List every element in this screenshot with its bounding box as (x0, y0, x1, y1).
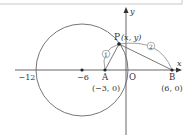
point-b-coords: (6, 0) (161, 84, 183, 93)
ratio-2-label: 2 (149, 43, 153, 50)
x-axis-arrow-icon (176, 68, 182, 73)
tick-label-neg12: −12 (19, 73, 36, 82)
apollonius-circle-diagram: x y 1 2 P (x, y) A (−3, 0) B (6, 0) O −1… (0, 0, 187, 139)
y-axis-label: y (129, 7, 135, 16)
origin-label: O (129, 72, 136, 82)
point-p-name: P (114, 32, 120, 42)
point-b-name: B (169, 72, 175, 82)
point-a-name: A (101, 72, 109, 82)
point-p-coords: (x, y) (121, 33, 141, 42)
point-a-coords: (−3, 0) (92, 84, 120, 93)
point-p (117, 42, 121, 46)
ratio-1-label: 1 (104, 51, 108, 58)
x-axis-label: x (177, 59, 182, 68)
tick-label-neg6: −6 (77, 73, 89, 82)
y-axis-arrow-icon (124, 7, 129, 13)
point-center (80, 68, 83, 71)
segment-pb (119, 44, 172, 70)
